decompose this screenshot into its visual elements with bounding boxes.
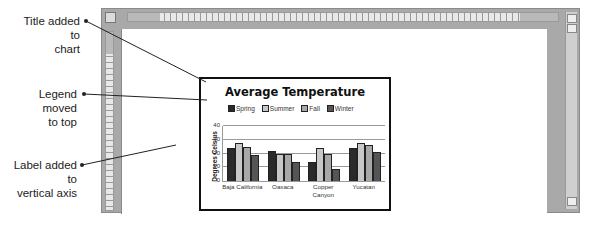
callout-title-line1: Title added to: [20, 14, 80, 42]
x-tick-label-line: Copper: [303, 183, 344, 191]
bar-group: [308, 148, 340, 181]
bar-fall[interactable]: [324, 154, 332, 182]
callout-legend: Legend moved to top: [15, 87, 77, 129]
bar-spring[interactable]: [268, 151, 276, 181]
callout-axis-line1: Label added to: [10, 158, 77, 186]
callout-axis: Label added to vertical axis: [10, 158, 77, 200]
bar-winter[interactable]: [373, 152, 381, 181]
y-tick-label: 0: [210, 177, 220, 183]
ruler-toggle-icon[interactable]: [567, 24, 577, 33]
bar-winter[interactable]: [332, 169, 340, 181]
x-tick-label: CopperCanyon: [303, 183, 344, 199]
callout-title: Title added to chart: [20, 14, 80, 56]
y-tick-label: 30: [210, 136, 220, 142]
bar-winter[interactable]: [251, 155, 259, 181]
top-margin-marker[interactable]: [106, 32, 113, 54]
chart-legend[interactable]: SpringSummerFallWinter: [228, 105, 354, 112]
legend-item-fall[interactable]: Fall: [301, 105, 319, 112]
x-tick-label-line: Baja California: [222, 183, 263, 191]
x-tick-label-line: Canyon: [303, 191, 344, 199]
legend-swatch: [228, 105, 235, 112]
bar-winter[interactable]: [292, 162, 300, 181]
legend-label: Winter: [335, 105, 354, 112]
word-document-window: Average Temperature SpringSummerFallWint…: [101, 8, 580, 213]
bar-summer[interactable]: [235, 143, 243, 182]
document-page[interactable]: Average Temperature SpringSummerFallWint…: [121, 29, 547, 214]
x-tick-label: Yucatan: [344, 183, 385, 191]
legend-swatch: [327, 105, 334, 112]
bar-summer[interactable]: [316, 148, 324, 181]
left-margin-marker[interactable]: [128, 13, 160, 21]
chart-title[interactable]: Average Temperature: [201, 85, 389, 99]
bar-group: [227, 143, 259, 182]
legend-item-winter[interactable]: Winter: [327, 105, 354, 112]
callout-axis-line2: vertical axis: [10, 186, 77, 200]
right-margin-marker[interactable]: [520, 13, 558, 21]
plot-area[interactable]: [222, 126, 385, 182]
legend-label: Summer: [270, 105, 295, 112]
legend-item-spring[interactable]: Spring: [228, 105, 255, 112]
scroll-up-icon[interactable]: [567, 14, 577, 23]
bar-summer[interactable]: [357, 143, 365, 182]
bar-fall[interactable]: [243, 147, 251, 181]
y-tick-label: 10: [210, 163, 220, 169]
chart-object[interactable]: Average Temperature SpringSummerFallWint…: [199, 77, 391, 211]
bar-spring[interactable]: [308, 162, 316, 181]
legend-swatch: [301, 105, 308, 112]
bar-fall[interactable]: [365, 145, 373, 181]
y-tick-label: 20: [210, 150, 220, 156]
callout-legend-line1: Legend moved: [15, 87, 77, 115]
tab-selector-button[interactable]: [105, 12, 116, 23]
x-tick-label: Oaxaca: [263, 183, 304, 191]
scroll-down-icon[interactable]: [567, 197, 577, 206]
y-tick-label: 40: [210, 122, 220, 128]
horizontal-ruler[interactable]: [127, 12, 559, 22]
bar-group: [349, 143, 381, 182]
legend-swatch: [262, 105, 269, 112]
bar-spring[interactable]: [227, 148, 235, 181]
callout-legend-line2: to top: [15, 115, 77, 129]
legend-label: Fall: [309, 105, 319, 112]
gridline: [223, 125, 385, 126]
bar-group: [268, 151, 300, 181]
vertical-ruler[interactable]: [105, 31, 114, 211]
bar-spring[interactable]: [349, 148, 357, 181]
gridline: [223, 139, 385, 140]
x-tick-label-line: Yucatan: [344, 183, 385, 191]
x-tick-label: Baja California: [222, 183, 263, 191]
callout-title-line2: chart: [20, 42, 80, 56]
bar-summer[interactable]: [276, 154, 284, 182]
legend-label: Spring: [236, 105, 255, 112]
x-tick-label-line: Oaxaca: [263, 183, 304, 191]
vertical-scrollbar[interactable]: [565, 12, 577, 209]
bar-fall[interactable]: [284, 154, 292, 182]
legend-item-summer[interactable]: Summer: [262, 105, 295, 112]
